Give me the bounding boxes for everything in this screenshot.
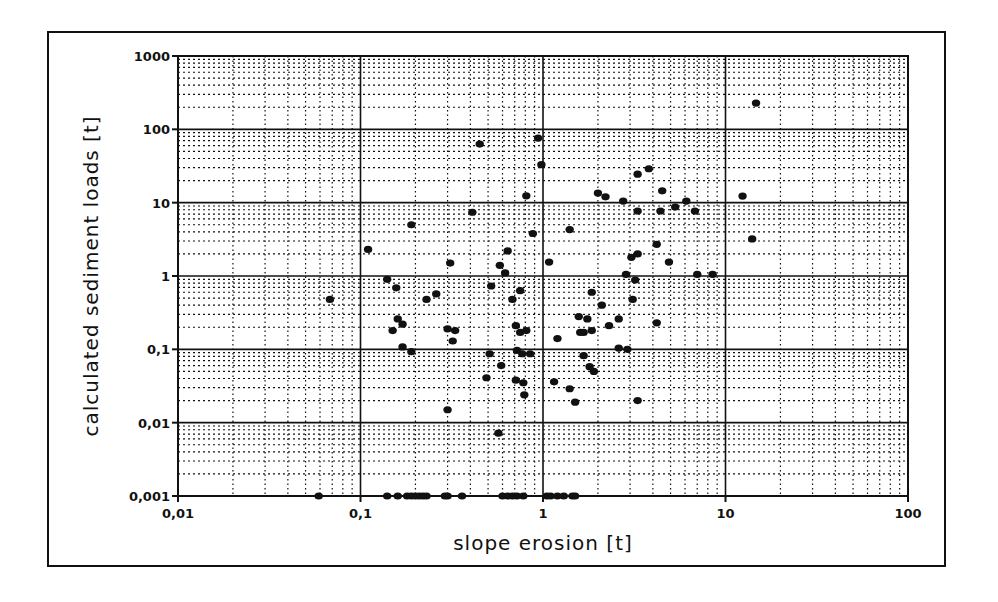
- data-point: [633, 171, 641, 178]
- data-point: [545, 258, 553, 265]
- data-point: [485, 350, 493, 357]
- data-point: [522, 192, 530, 199]
- x-tick-label: 0,01: [162, 506, 194, 521]
- x-tick-label: 10: [716, 506, 734, 521]
- data-point: [601, 193, 609, 200]
- x-tick-label: 1: [538, 506, 547, 521]
- data-point: [496, 262, 504, 269]
- data-point: [398, 343, 406, 350]
- data-point: [588, 327, 596, 334]
- data-point: [588, 289, 596, 296]
- x-tick-label: 100: [894, 506, 921, 521]
- data-point: [628, 296, 636, 303]
- data-point: [653, 241, 661, 248]
- y-tick-label: 10: [152, 196, 170, 211]
- y-axis-title: calculated sediment loads [t]: [79, 115, 103, 436]
- data-point: [388, 327, 396, 334]
- data-point: [594, 190, 602, 197]
- data-point: [468, 209, 476, 216]
- data-point: [658, 187, 666, 194]
- data-point: [451, 327, 459, 334]
- data-point: [656, 207, 664, 214]
- data-point: [579, 329, 587, 336]
- y-axis-ticks: 0,0010,010,11101001000: [129, 49, 178, 504]
- data-point: [537, 161, 545, 168]
- data-point: [645, 165, 653, 172]
- data-point: [512, 377, 520, 384]
- data-point: [622, 271, 630, 278]
- x-tick-label: 0,1: [349, 506, 372, 521]
- data-point: [326, 296, 334, 303]
- data-point: [407, 348, 415, 355]
- data-point: [615, 344, 623, 351]
- data-point: [665, 258, 673, 265]
- data-point: [526, 350, 534, 357]
- data-point: [501, 269, 509, 276]
- data-point: [512, 322, 520, 329]
- data-point: [565, 385, 573, 392]
- data-point: [443, 406, 451, 413]
- data-point: [508, 296, 516, 303]
- data-point: [693, 271, 701, 278]
- data-point: [682, 198, 690, 205]
- data-point: [534, 134, 542, 141]
- data-point: [631, 276, 639, 283]
- data-point: [487, 282, 495, 289]
- data-point: [503, 247, 511, 254]
- data-points: [314, 99, 760, 499]
- data-point: [446, 259, 454, 266]
- data-point: [598, 302, 606, 309]
- data-point: [519, 379, 527, 386]
- data-point: [516, 287, 524, 294]
- y-tick-label: 0,001: [129, 489, 170, 504]
- y-tick-label: 1000: [134, 49, 170, 64]
- data-point: [392, 284, 400, 291]
- data-point: [752, 99, 760, 106]
- data-point: [605, 322, 613, 329]
- data-point: [364, 246, 372, 253]
- x-axis-ticks: 0,010,1110100: [162, 496, 922, 521]
- data-point: [583, 315, 591, 322]
- data-point: [497, 362, 505, 369]
- data-point: [529, 230, 537, 237]
- data-point: [623, 346, 631, 353]
- data-point: [383, 276, 391, 283]
- data-point: [653, 319, 661, 326]
- data-point: [619, 198, 627, 205]
- data-point: [633, 207, 641, 214]
- data-point: [748, 235, 756, 242]
- data-point: [738, 192, 746, 199]
- y-tick-label: 100: [143, 122, 170, 137]
- data-point: [522, 327, 530, 334]
- scatter-chart: 0,010,1110100 0,0010,010,11101001000 slo…: [0, 0, 998, 602]
- data-point: [448, 337, 456, 344]
- data-point: [708, 271, 716, 278]
- data-point: [575, 313, 583, 320]
- data-point: [671, 204, 679, 211]
- data-point: [553, 335, 561, 342]
- data-point: [443, 325, 451, 332]
- data-point: [571, 399, 579, 406]
- y-tick-label: 0,01: [138, 416, 170, 431]
- data-point: [691, 207, 699, 214]
- data-point: [398, 321, 406, 328]
- data-point: [590, 368, 598, 375]
- y-tick-label: 0,1: [147, 342, 170, 357]
- x-axis-title: slope erosion [t]: [453, 531, 633, 555]
- data-point: [565, 226, 573, 233]
- data-point: [422, 296, 430, 303]
- data-point: [407, 221, 415, 228]
- data-point: [579, 352, 587, 359]
- data-point: [518, 350, 526, 357]
- data-point: [520, 391, 528, 398]
- data-point: [482, 374, 490, 381]
- data-point: [494, 430, 502, 437]
- data-point: [615, 315, 623, 322]
- data-point: [633, 397, 641, 404]
- data-point: [633, 250, 641, 257]
- data-point: [432, 290, 440, 297]
- y-tick-label: 1: [161, 269, 170, 284]
- data-point: [550, 378, 558, 385]
- data-point: [476, 140, 484, 147]
